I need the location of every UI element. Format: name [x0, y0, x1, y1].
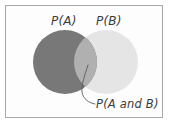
- label-set-b: P(B): [96, 15, 122, 27]
- label-intersection: P(A and B): [96, 99, 159, 111]
- label-set-a: P(A): [51, 15, 77, 27]
- venn-figure: P(A) P(B) P(A and B): [0, 0, 169, 125]
